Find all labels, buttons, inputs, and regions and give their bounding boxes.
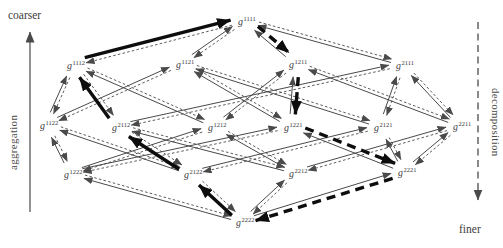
dec-arrow-2211-to-2221 [415,135,450,164]
agg-arrow-2211-to-1211 [308,70,448,123]
dec-arrow-1211-to-1221 [295,77,298,114]
dec-arrow-1122-to-2122 [61,127,180,168]
agg-arrow-1122-to-1121 [57,67,169,117]
lattice-svg: g1111g1112g1121g1211g2111g1122g2112g1212… [0,0,503,248]
dec-arrow-1111-to-1121 [194,29,235,57]
node-g-1222: g1222 [64,168,83,181]
agg-arrow-2122-to-1122 [60,130,179,171]
node-g-1221: g1221 [284,121,303,134]
agg-arrow-2222-to-2221 [254,173,391,215]
dec-arrow-1211-to-1212 [226,73,286,120]
dec-arrow-1211-to-2211 [310,66,450,119]
node-g-2122: g2122 [184,168,203,181]
dec-arrow-2111-to-2211 [414,73,453,115]
node-g-2112: g2112 [112,121,130,134]
node-g-2121: g2121 [374,121,393,134]
agg-arrow-2121-to-1121 [196,69,369,124]
agg-arrow-1222-to-1212 [82,129,201,168]
node-g-1111: g1111 [238,15,256,28]
agg-arrow-2222-to-1222 [84,178,231,219]
agg-arrow-2221-to-2211 [413,133,448,162]
finer-label: finer [459,223,481,235]
dec-arrow-1111-to-1112 [86,25,232,63]
aggregation-axis-label: aggregation [7,115,19,170]
lattice-figure: g1111g1112g1121g1211g2111g1122g2112g1212… [0,0,503,248]
node-g-1211: g1211 [289,58,307,71]
agg-arrow-2212-to-2211 [307,127,446,167]
agg-arrow-2121-to-2111 [383,77,396,114]
agg-arrow-2221-to-1221 [303,133,393,168]
dec-arrow-2221-to-2222 [255,178,392,220]
dec-arrow-1111-to-2111 [259,22,392,59]
dec-arrow-1121-to-2121 [197,66,370,121]
coarser-label: coarser [8,9,41,21]
agg-arrow-2112-to-2111 [130,65,389,121]
dec-arrow-2122-to-2222 [203,181,236,211]
node-g-1112: g1112 [67,59,85,72]
dec-arrow-1112-to-1122 [54,78,70,114]
node-g-2222: g2222 [236,216,255,229]
node-g-1121: g1121 [176,58,194,71]
grid-nodes: g1111g1112g1121g1211g2111g1122g2112g1212… [40,15,471,229]
agg-arrow-1112-to-1111 [85,20,231,58]
decomposition-axis-label: decomposition [490,88,502,157]
agg-arrow-2222-to-2212 [251,180,285,211]
node-g-2221: g2221 [398,166,417,179]
agg-arrow-1122-to-1112 [50,76,66,112]
agg-arrow-2212-to-2112 [132,131,284,170]
dec-arrow-2111-to-2121 [387,78,400,115]
dec-arrow-2111-to-2112 [131,69,390,125]
agg-arrow-2222-to-2122 [199,185,232,215]
node-g-2212: g2212 [289,167,308,180]
dec-arrow-1111-to-1211 [258,26,289,52]
agg-arrow-1211-to-1111 [255,30,286,56]
dec-arrow-2212-to-2222 [253,183,287,214]
node-g-1122: g1122 [40,119,58,132]
agg-arrow-1221-to-1121 [194,72,280,122]
node-g-2211: g2211 [453,120,471,133]
dec-arrow-1121-to-1122 [59,70,171,120]
node-g-2111: g2111 [396,59,414,72]
agg-arrow-2112-to-1112 [79,77,109,118]
dec-arrow-1121-to-1221 [196,68,282,118]
agg-arrow-2111-to-1111 [258,25,391,62]
dec-arrow-1221-to-1222 [83,131,278,173]
node-g-1212: g1212 [208,121,227,134]
